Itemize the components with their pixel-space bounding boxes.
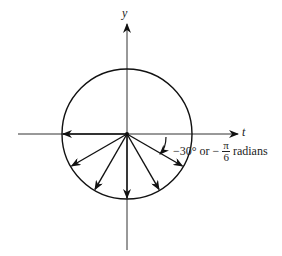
y-axis-label: y: [122, 6, 127, 21]
angle-arc-icon: [160, 137, 166, 154]
angle-annotation: −30° or − π 6 radians: [173, 140, 268, 163]
vector-arrow: [72, 134, 127, 166]
fraction: π 6: [222, 140, 230, 163]
unit-circle-diagram: [0, 0, 282, 256]
vectors: [63, 134, 182, 198]
origin-dot: [125, 132, 129, 136]
t-axis-label: t: [242, 125, 245, 140]
vector-arrow: [127, 134, 159, 189]
vector-arrow: [95, 134, 127, 189]
fraction-denominator: 6: [222, 152, 230, 163]
radians-text: radians: [233, 144, 268, 158]
angle-text: −30° or −: [173, 144, 219, 158]
